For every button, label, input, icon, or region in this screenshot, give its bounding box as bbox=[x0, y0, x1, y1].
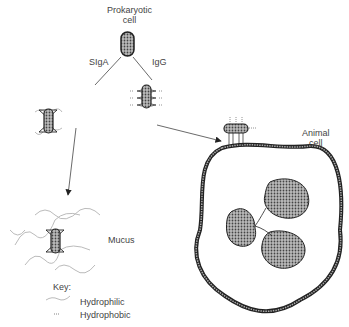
hydrophilic-key-icon bbox=[46, 296, 70, 300]
label-line: cell bbox=[107, 15, 152, 25]
mucus-label: Mucus bbox=[108, 235, 135, 245]
animal-cell-label: Animal cell bbox=[302, 128, 330, 148]
igg-label: IgG bbox=[152, 57, 167, 67]
prokaryotic-cell-label: Prokaryotic cell bbox=[107, 5, 152, 25]
bound-bacterium-icon bbox=[224, 117, 257, 145]
siga-cell-in-mucus-icon bbox=[46, 229, 64, 253]
label-line: cell bbox=[302, 138, 330, 148]
arrow-to-animal-cell bbox=[157, 125, 221, 141]
arrow-to-mucus bbox=[68, 128, 76, 195]
key-hydrophilic-label: Hydrophilic bbox=[80, 297, 125, 307]
key-title: Key: bbox=[53, 282, 71, 292]
key-hydrophobic-label: Hydrophobic bbox=[80, 310, 131, 320]
igg-coated-cell-icon bbox=[130, 85, 163, 108]
label-line: Animal bbox=[302, 128, 330, 138]
prokaryotic-cell-icon bbox=[121, 32, 134, 56]
siga-label: SIgA bbox=[89, 57, 109, 67]
label-line: Prokaryotic bbox=[107, 5, 152, 15]
arrow-igg bbox=[133, 57, 152, 80]
diagram-canvas bbox=[0, 0, 349, 327]
siga-coated-cell-icon bbox=[35, 109, 62, 135]
